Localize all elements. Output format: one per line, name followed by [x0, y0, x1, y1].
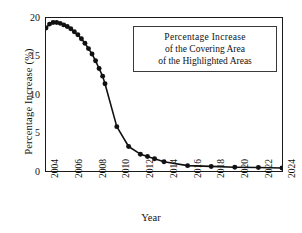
x-tick-label-2014: 2014: [170, 144, 180, 178]
data-point: [75, 32, 80, 37]
x-axis-label: Year: [0, 212, 302, 223]
data-point: [93, 58, 98, 63]
legend-line-3: of the Highlighted Areas: [158, 56, 252, 67]
legend-line-2: of the Covering Area: [165, 44, 245, 55]
x-tick-label-2020: 2020: [241, 144, 251, 178]
x-tick-label-2016: 2016: [194, 144, 204, 178]
x-tick-label-2010: 2010: [122, 144, 132, 178]
data-point: [86, 46, 91, 51]
chart-figure: Percentage Increase (%) 20 15 10 5 0 Per…: [0, 0, 302, 233]
x-tick-label-2006: 2006: [75, 144, 85, 178]
y-tick-label-10: 10: [14, 90, 40, 100]
data-point: [232, 165, 237, 170]
y-tick-label-15: 15: [14, 51, 40, 61]
y-tick-label-0: 0: [14, 167, 40, 177]
data-point: [97, 66, 102, 71]
y-axis-label: Percentage Increase (%): [23, 22, 34, 182]
data-point: [90, 51, 95, 56]
data-point: [256, 165, 261, 170]
data-point: [82, 41, 87, 46]
x-tick-label-2024: 2024: [288, 144, 298, 178]
legend-annotation-box: Percentage Increase of the Covering Area…: [133, 26, 277, 72]
x-tick-label-2018: 2018: [217, 144, 227, 178]
data-point: [79, 36, 84, 41]
data-point: [280, 165, 282, 170]
data-point: [114, 124, 119, 129]
x-tick-label-2008: 2008: [99, 144, 109, 178]
data-point: [209, 164, 214, 169]
x-tick-label-2012: 2012: [146, 144, 156, 178]
data-point: [100, 74, 105, 79]
y-tick-label-5: 5: [14, 128, 40, 138]
x-tick-label-2022: 2022: [265, 144, 275, 178]
legend-line-1: Percentage Increase: [164, 32, 245, 43]
data-point: [138, 152, 143, 157]
data-point: [103, 81, 108, 86]
data-point: [185, 163, 190, 168]
y-tick-label-20: 20: [14, 13, 40, 23]
x-tick-label-2004: 2004: [51, 144, 61, 178]
data-point: [162, 159, 167, 164]
